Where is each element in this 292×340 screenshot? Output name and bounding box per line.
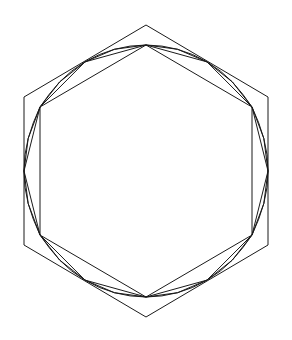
diagram-canvas: [0, 0, 292, 340]
circumscribed-hexagon: [24, 25, 268, 317]
inscribed-6-gon: [40, 45, 252, 297]
inscribed-12-gon: [24, 45, 268, 297]
polygon-diagram: [0, 0, 292, 340]
inscribed-polygons: [24, 45, 268, 297]
inscribed-24-gon: [24, 45, 268, 297]
inscribed-48-gon: [24, 45, 268, 297]
